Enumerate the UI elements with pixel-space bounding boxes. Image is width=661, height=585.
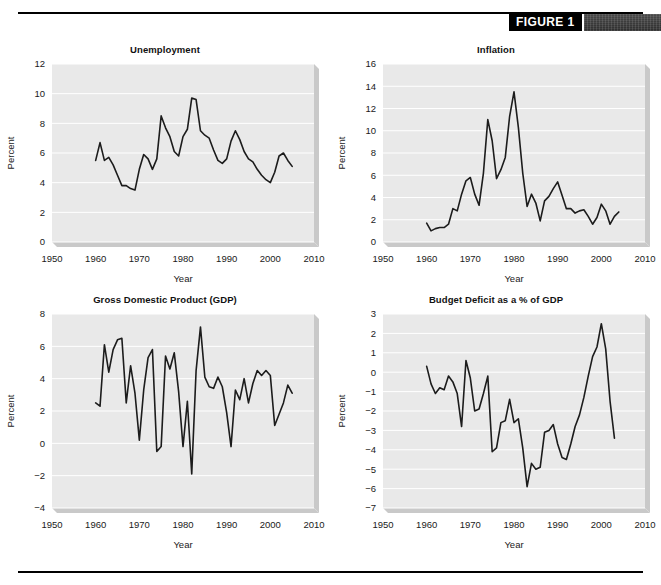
svg-text:12: 12 <box>34 58 45 69</box>
svg-text:1: 1 <box>371 347 376 358</box>
svg-text:6: 6 <box>40 147 45 158</box>
svg-text:1950: 1950 <box>372 519 393 530</box>
svg-text:1960: 1960 <box>416 253 437 264</box>
svg-text:8: 8 <box>40 308 45 319</box>
svg-text:12: 12 <box>365 103 376 114</box>
chart-svg-gdp: −4−2024681950196019701980199020002010Yea… <box>0 306 330 556</box>
svg-text:1990: 1990 <box>216 519 237 530</box>
svg-text:2000: 2000 <box>260 253 281 264</box>
svg-text:2: 2 <box>371 328 376 339</box>
svg-text:−3: −3 <box>365 425 376 436</box>
svg-text:2010: 2010 <box>303 519 324 530</box>
svg-text:1970: 1970 <box>460 519 481 530</box>
svg-text:3: 3 <box>371 308 376 319</box>
svg-text:−2: −2 <box>34 470 45 481</box>
svg-text:10: 10 <box>365 125 376 136</box>
svg-text:14: 14 <box>365 81 376 92</box>
svg-text:1960: 1960 <box>85 519 106 530</box>
svg-text:0: 0 <box>371 236 376 247</box>
chart-title-gdp: Gross Domestic Product (GDP) <box>0 294 330 305</box>
svg-text:Percent: Percent <box>336 394 347 427</box>
svg-text:−2: −2 <box>365 405 376 416</box>
svg-text:4: 4 <box>40 177 45 188</box>
chart-svg-unemployment: 0246810121950196019701980199020002010Yea… <box>0 56 330 290</box>
figure-swatch <box>584 14 661 31</box>
svg-text:1980: 1980 <box>172 253 193 264</box>
svg-text:2000: 2000 <box>591 253 612 264</box>
svg-text:Year: Year <box>173 273 192 284</box>
svg-text:Percent: Percent <box>5 136 16 169</box>
chart-title-budget-deficit: Budget Deficit as a % of GDP <box>331 294 661 305</box>
chart-panel-unemployment: Unemployment 024681012195019601970198019… <box>0 44 330 290</box>
svg-text:1950: 1950 <box>372 253 393 264</box>
svg-text:4: 4 <box>40 373 45 384</box>
svg-text:−7: −7 <box>365 502 376 513</box>
chart-svg-budget-deficit: −7−6−5−4−3−2−101231950196019701980199020… <box>331 306 661 556</box>
svg-text:1970: 1970 <box>460 253 481 264</box>
svg-text:6: 6 <box>371 170 376 181</box>
svg-text:2010: 2010 <box>634 253 655 264</box>
svg-text:Year: Year <box>504 539 523 550</box>
chart-title-inflation: Inflation <box>331 44 661 55</box>
figure-label: FIGURE 1 <box>509 14 582 31</box>
svg-text:1990: 1990 <box>547 519 568 530</box>
svg-text:6: 6 <box>40 341 45 352</box>
svg-text:1980: 1980 <box>503 519 524 530</box>
figure-banner: FIGURE 1 <box>0 8 661 30</box>
svg-text:1990: 1990 <box>216 253 237 264</box>
chart-panel-budget-deficit: Budget Deficit as a % of GDP −7−6−5−4−3−… <box>331 294 661 556</box>
svg-text:1980: 1980 <box>172 519 193 530</box>
svg-text:2010: 2010 <box>303 253 324 264</box>
svg-text:−6: −6 <box>365 483 376 494</box>
svg-text:Percent: Percent <box>5 394 16 427</box>
chart-title-unemployment: Unemployment <box>0 44 330 55</box>
svg-text:Year: Year <box>173 539 192 550</box>
svg-text:4: 4 <box>371 192 376 203</box>
svg-text:−4: −4 <box>365 444 376 455</box>
svg-text:0: 0 <box>371 367 376 378</box>
svg-text:2: 2 <box>371 214 376 225</box>
svg-text:0: 0 <box>40 438 45 449</box>
chart-panel-gdp: Gross Domestic Product (GDP) −4−20246819… <box>0 294 330 556</box>
svg-text:16: 16 <box>365 58 376 69</box>
svg-text:1970: 1970 <box>129 519 150 530</box>
figure-page: FIGURE 1 Unemployment 024681012195019601… <box>0 0 661 585</box>
svg-text:0: 0 <box>40 236 45 247</box>
svg-text:2000: 2000 <box>260 519 281 530</box>
svg-text:2010: 2010 <box>634 519 655 530</box>
svg-text:2: 2 <box>40 207 45 218</box>
bottom-rule <box>18 571 643 573</box>
svg-text:1990: 1990 <box>547 253 568 264</box>
svg-text:Percent: Percent <box>336 136 347 169</box>
svg-text:1980: 1980 <box>503 253 524 264</box>
svg-text:−5: −5 <box>365 464 376 475</box>
svg-text:1950: 1950 <box>41 519 62 530</box>
svg-text:Year: Year <box>504 273 523 284</box>
svg-text:1950: 1950 <box>41 253 62 264</box>
chart-panel-inflation: Inflation 024681012141619501960197019801… <box>331 44 661 290</box>
svg-text:−1: −1 <box>365 386 376 397</box>
svg-text:−4: −4 <box>34 502 45 513</box>
svg-text:10: 10 <box>34 88 45 99</box>
svg-text:2000: 2000 <box>591 519 612 530</box>
svg-text:1960: 1960 <box>85 253 106 264</box>
svg-text:1960: 1960 <box>416 519 437 530</box>
svg-text:1970: 1970 <box>129 253 150 264</box>
svg-text:2: 2 <box>40 405 45 416</box>
svg-text:8: 8 <box>40 118 45 129</box>
svg-text:8: 8 <box>371 147 376 158</box>
chart-svg-inflation: 0246810121416195019601970198019902000201… <box>331 56 661 290</box>
